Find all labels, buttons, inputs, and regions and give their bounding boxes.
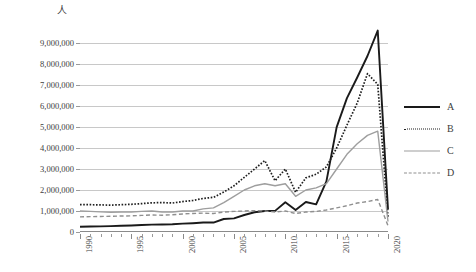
- x-axis-tick-label: 2000: [187, 236, 197, 253]
- legend-item-c[interactable]: C: [404, 140, 474, 162]
- x-axis-minor-tick: [121, 234, 122, 237]
- y-axis-tick-labels: 01,000,0002,000,0003,000,0004,000,0005,0…: [0, 43, 76, 232]
- x-axis-line: [80, 231, 388, 232]
- x-axis-minor-tick: [224, 234, 225, 237]
- x-axis-minor-tick: [367, 234, 368, 237]
- y-axis-tick-label: 1,000,000: [0, 207, 74, 215]
- legend-swatch-icon: [404, 102, 440, 112]
- series-line-a: [80, 31, 388, 227]
- y-axis-tick-label: 5,000,000: [0, 123, 74, 131]
- x-axis-tick-label: 1990: [84, 236, 94, 253]
- x-axis-minor-tick: [111, 234, 112, 237]
- x-axis-minor-tick: [265, 234, 266, 237]
- legend-item-b[interactable]: B: [404, 118, 474, 140]
- x-axis-major-tick: [337, 234, 338, 239]
- x-axis-minor-tick: [142, 234, 143, 237]
- x-axis-minor-tick: [193, 234, 194, 237]
- x-axis-minor-tick: [296, 234, 297, 237]
- x-axis-tick-label: 2015: [341, 236, 351, 253]
- y-axis-tick-label: 6,000,000: [0, 102, 74, 110]
- x-axis-minor-tick: [275, 234, 276, 237]
- y-axis-tick-mark: [76, 232, 80, 233]
- x-axis-minor-tick: [316, 234, 317, 237]
- x-axis-tick-label: 2005: [238, 236, 248, 253]
- legend-label: B: [440, 124, 454, 134]
- legend-label: C: [440, 146, 454, 156]
- x-axis-minor-tick: [172, 234, 173, 237]
- x-axis-minor-tick: [306, 234, 307, 237]
- x-axis-major-tick: [80, 234, 81, 239]
- x-axis-major-tick: [388, 234, 389, 239]
- x-axis-minor-tick: [326, 234, 327, 237]
- x-axis-minor-tick: [152, 234, 153, 237]
- y-axis-tick-label: 3,000,000: [0, 165, 74, 173]
- y-axis-tick-label: 0: [0, 228, 74, 236]
- y-axis-tick-label: 9,000,000: [0, 39, 74, 47]
- series-lines: [80, 43, 388, 232]
- line-chart: 人 01,000,0002,000,0003,000,0004,000,0005…: [0, 0, 476, 272]
- x-axis-minor-tick: [162, 234, 163, 237]
- legend-swatch-icon: [404, 124, 440, 134]
- plot-area: [80, 43, 388, 232]
- x-axis-tick-label: 2020: [392, 236, 402, 253]
- x-axis-minor-tick: [101, 234, 102, 237]
- y-axis-tick-label: 8,000,000: [0, 60, 74, 68]
- legend-swatch-icon: [404, 146, 440, 156]
- x-axis-tick-label: 2010: [289, 236, 299, 253]
- x-axis-minor-tick: [90, 234, 91, 237]
- legend-label: A: [440, 102, 454, 112]
- x-axis-major-tick: [131, 234, 132, 239]
- chart-legend: ABCD: [404, 96, 474, 184]
- y-axis-tick-label: 2,000,000: [0, 186, 74, 194]
- x-axis-major-tick: [285, 234, 286, 239]
- x-axis-ticks: 1990199520002005201020152020: [80, 234, 388, 272]
- x-axis-minor-tick: [357, 234, 358, 237]
- x-axis-minor-tick: [203, 234, 204, 237]
- x-axis-minor-tick: [255, 234, 256, 237]
- legend-label: D: [440, 168, 454, 178]
- y-axis-unit-label: 人: [57, 6, 67, 16]
- legend-swatch-icon: [404, 168, 440, 178]
- x-axis-tick-label: 1995: [135, 236, 145, 253]
- x-axis-major-tick: [183, 234, 184, 239]
- series-line-c: [80, 131, 388, 221]
- y-axis-tick-label: 4,000,000: [0, 144, 74, 152]
- y-axis-tick-label: 7,000,000: [0, 81, 74, 89]
- x-axis-minor-tick: [347, 234, 348, 237]
- legend-item-a[interactable]: A: [404, 96, 474, 118]
- legend-item-d[interactable]: D: [404, 162, 474, 184]
- x-axis-major-tick: [234, 234, 235, 239]
- x-axis-minor-tick: [213, 234, 214, 237]
- x-axis-minor-tick: [244, 234, 245, 237]
- x-axis-minor-tick: [378, 234, 379, 237]
